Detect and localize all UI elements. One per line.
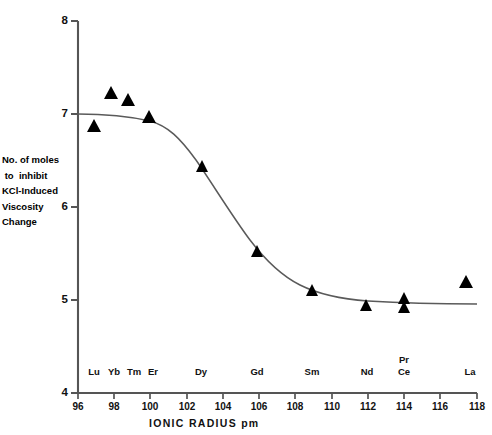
element-label-dy: Dy — [184, 366, 218, 377]
data-point-yb — [104, 86, 118, 99]
y-tick-label-5: 5 — [50, 293, 68, 305]
data-points — [87, 86, 473, 313]
x-tick-label-110: 110 — [318, 401, 346, 412]
y-axis-title-line-3: KCl-Induced — [2, 183, 74, 199]
x-tick-label-114: 114 — [390, 401, 418, 412]
data-point-la — [459, 275, 473, 288]
y-axis-title-line-2: to inhibit — [2, 168, 74, 184]
x-tick-label-102: 102 — [173, 401, 201, 412]
x-tick-label-96: 96 — [64, 401, 92, 412]
x-tick-label-108: 108 — [281, 401, 309, 412]
y-axis-title-line-5: Change — [2, 214, 74, 230]
y-tick-label-7: 7 — [50, 107, 68, 119]
x-tick-label-104: 104 — [209, 401, 237, 412]
x-tick-label-100: 100 — [136, 401, 164, 412]
x-axis-title: IONIC RADIUS pm — [149, 417, 260, 429]
data-point-er — [142, 110, 156, 123]
x-tick-label-118: 118 — [463, 401, 491, 412]
x-tick-label-116: 116 — [426, 401, 454, 412]
x-tick-label-106: 106 — [245, 401, 273, 412]
element-label-sm: Sm — [295, 366, 329, 377]
data-point-tm — [121, 93, 135, 106]
element-label-gd: Gd — [240, 366, 274, 377]
data-point-sm — [306, 284, 318, 296]
fitted-curve — [78, 114, 477, 304]
data-point-lu — [87, 119, 101, 132]
y-tick-label-4: 4 — [50, 386, 68, 398]
element-label-ce: Ce — [387, 366, 421, 377]
y-tick-label-8: 8 — [50, 14, 68, 26]
x-tick-label-98: 98 — [100, 401, 128, 412]
y-axis-title: No. of moles to inhibit KCl-Induced Visc… — [2, 152, 74, 230]
y-axis-title-line-4: Viscosity — [2, 199, 74, 215]
data-point-gd — [251, 245, 263, 257]
ionic-radius-viscosity-chart: 8 7 6 5 4 No. of moles to inhibit KCl-In… — [0, 0, 492, 435]
element-label-la: La — [453, 366, 487, 377]
element-label-nd: Nd — [350, 366, 384, 377]
x-tick-label-112: 112 — [354, 401, 382, 412]
y-axis-title-line-1: No. of moles — [2, 152, 74, 168]
element-label-pr: Pr — [387, 354, 421, 365]
element-label-er: Er — [136, 366, 170, 377]
